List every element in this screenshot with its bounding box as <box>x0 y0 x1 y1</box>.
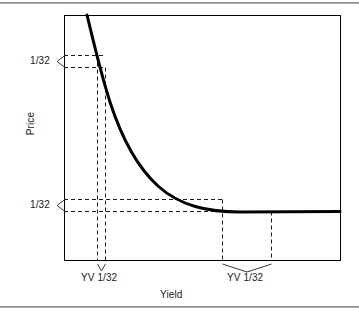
price-increment-high-label: 1/32 <box>30 55 50 66</box>
bracket-price-high-icon <box>57 56 65 68</box>
price-yield-figure: Price Yield 1/32 1/32 YV 1/32 YV 1/32 <box>0 0 359 316</box>
plot-canvas <box>0 0 359 316</box>
x-axis-title: Yield <box>160 289 182 300</box>
price-yield-curve <box>87 15 340 212</box>
bracket-yv-right-icon <box>223 264 272 272</box>
price-increment-low-label: 1/32 <box>30 199 50 210</box>
yield-value-left-label: YV 1/32 <box>81 272 117 283</box>
y-axis-title: Price <box>25 104 36 144</box>
yield-value-right-label: YV 1/32 <box>227 272 263 283</box>
bracket-price-low-icon <box>57 200 65 212</box>
bracket-yv-left-icon <box>98 264 106 271</box>
